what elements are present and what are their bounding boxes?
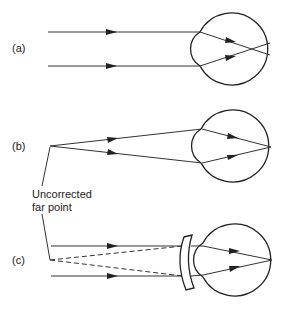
arrow-icon [107,137,118,143]
eye [191,13,268,85]
panel-b-label: (b) [12,140,25,152]
panel-a: (a) [12,13,270,85]
arrow-icon [106,63,117,69]
panel-c: (c) [12,224,272,296]
arrow-icon [106,29,117,35]
virtual-ray-top [50,246,183,260]
ray-bottom [50,146,202,163]
virtual-ray-bottom [50,260,183,276]
far-point-annotation: Uncorrected far point [32,147,92,260]
arrow-icon [107,243,118,249]
eye [194,224,271,296]
panel-a-label: (a) [12,42,25,54]
leader-line-top [42,147,50,186]
myopia-diagram: (a) (b) Uncorrected far point [0,0,289,311]
leader-line-bottom [42,214,50,260]
panel-b: (b) [12,110,271,182]
concave-lens [180,235,194,290]
arrow-icon [107,149,118,155]
panel-c-label: (c) [12,254,25,266]
arrow-icon [107,273,118,279]
annotation-line-1: Uncorrected [32,188,92,200]
annotation-line-2: far point [32,201,72,213]
ray-top [50,129,202,146]
eye [192,110,269,182]
